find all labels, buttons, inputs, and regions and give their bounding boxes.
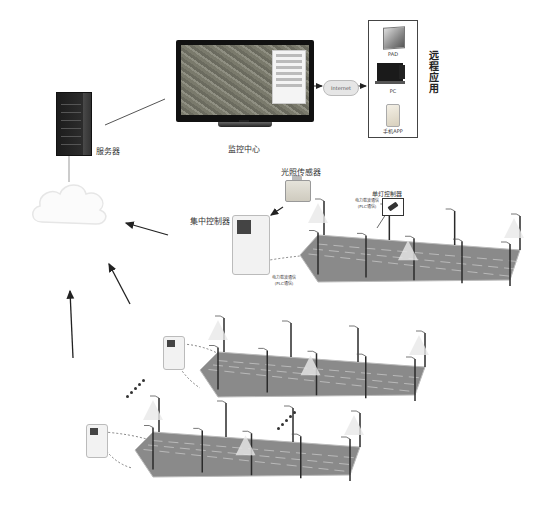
- remote-apps-label: 远程应用: [428, 50, 438, 94]
- street-lamp-arm: [215, 316, 224, 318]
- street-lamp-arm: [284, 406, 293, 408]
- street-lamp-arm: [209, 345, 218, 347]
- smartphone-icon: [386, 104, 400, 127]
- single-lamp-controller-label: 单灯控制器: [372, 189, 402, 198]
- sensor-wireless-arrow: [271, 207, 283, 215]
- plc-comm-label-2: 电力载波通信 (PLC通信): [355, 198, 379, 210]
- plc-wire-3b: [104, 448, 132, 468]
- plc-comm-label-1: 电力载波通信 (PLC通信): [272, 275, 296, 287]
- street-lamp-arm: [406, 357, 415, 359]
- lamp-light-cone: [344, 415, 364, 435]
- street-lamp-arm: [501, 242, 510, 244]
- controller1-cloud-arrow: [126, 223, 168, 235]
- street-lamp-arm: [357, 233, 366, 235]
- plc-wire-2b: [180, 368, 200, 388]
- street-lamp-arm: [217, 401, 226, 403]
- server-monitor-link: [105, 99, 165, 125]
- central-controller-label: 集中控制器: [190, 215, 230, 226]
- server-label: 服务器: [96, 145, 120, 156]
- slc-pointer: [377, 214, 386, 228]
- plc-comm-line2: (PLC通信): [272, 281, 296, 287]
- street-lamp-arm: [309, 230, 318, 232]
- street-lamp-arm: [144, 425, 153, 427]
- controller2-cloud-arrow: [109, 264, 130, 304]
- monitor-stand: [218, 122, 272, 127]
- lamp-light-cone: [143, 400, 163, 420]
- light-sensor-icon: [285, 180, 311, 202]
- street-lamp-arm: [243, 431, 252, 433]
- street-lamp-arm: [150, 396, 159, 398]
- street-lamp-arm: [446, 209, 455, 211]
- central-controller-icon: [86, 424, 108, 458]
- app-label: 手机APP: [369, 127, 417, 134]
- street-lamp-arm: [341, 437, 350, 439]
- server-rack: [56, 92, 92, 156]
- internet-cloud-icon: Internet: [323, 80, 359, 96]
- lamp-light-cone: [308, 203, 328, 223]
- lamp-light-cone: [409, 335, 429, 355]
- pc-tower: [399, 65, 405, 79]
- street-lamp-arm: [405, 236, 414, 238]
- monitor-side-panel: [272, 50, 306, 104]
- street-lamp-arm: [193, 428, 202, 430]
- central-controller-icon: [163, 336, 185, 370]
- lamp-light-cone: [208, 320, 228, 340]
- pad-label: PAD: [369, 51, 417, 57]
- plc-comm-line2: (PLC通信): [355, 204, 379, 210]
- monitor-icon: [176, 40, 314, 122]
- street-lamp-arm: [351, 411, 360, 413]
- street-lamp-arm: [511, 214, 520, 216]
- street-lamp-arm: [258, 348, 267, 350]
- pc-label: PC: [369, 88, 417, 94]
- controller3-cloud-arrow: [70, 291, 73, 358]
- street-lamp-arm: [308, 351, 317, 353]
- lamp-controller-icon: [382, 198, 404, 216]
- monitoring-center-label: 监控中心: [228, 143, 260, 154]
- keyboard: [375, 81, 405, 84]
- street-lamp-arm: [282, 321, 291, 323]
- street-lamp-arm: [349, 326, 358, 328]
- tablet-icon: [383, 26, 405, 50]
- remote-apps-box: PAD PC 手机APP: [368, 20, 418, 138]
- street-lamp-arm: [416, 331, 425, 333]
- light-sensor-label: 光照传感器: [281, 166, 321, 177]
- central-controller-icon: [232, 215, 270, 275]
- network-cloud-icon: [28, 178, 110, 230]
- lamp-light-cone: [504, 218, 524, 238]
- street-lamp-arm: [315, 199, 324, 201]
